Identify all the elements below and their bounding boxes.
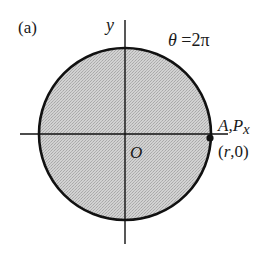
point-coords: (r,0) [218,142,249,161]
point-label-p: P [232,116,243,135]
origin-label: O [130,143,142,162]
panel-label: (a) [18,18,37,37]
angle-value: =2π [177,30,210,50]
point-label-subscript: x [242,121,250,137]
angle-label: θ =2π [168,30,210,50]
point-label-a: A, [217,116,233,135]
circle-diagram: (a) y O θ =2π A,Px (r,0) [0,0,273,256]
point-label: A,Px [217,116,250,137]
point-a-dot [206,134,213,141]
theta-symbol: θ [168,30,177,50]
coord-rest: ,0) [230,142,248,161]
y-axis-label: y [104,15,114,35]
